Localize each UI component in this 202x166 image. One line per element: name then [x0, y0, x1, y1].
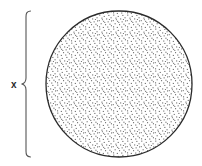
figure-canvas: x	[0, 0, 202, 166]
dimension-brace-icon	[22, 11, 31, 157]
diagram-svg: x	[0, 0, 202, 166]
stippled-circle	[46, 11, 192, 157]
dimension-label: x	[11, 79, 17, 90]
